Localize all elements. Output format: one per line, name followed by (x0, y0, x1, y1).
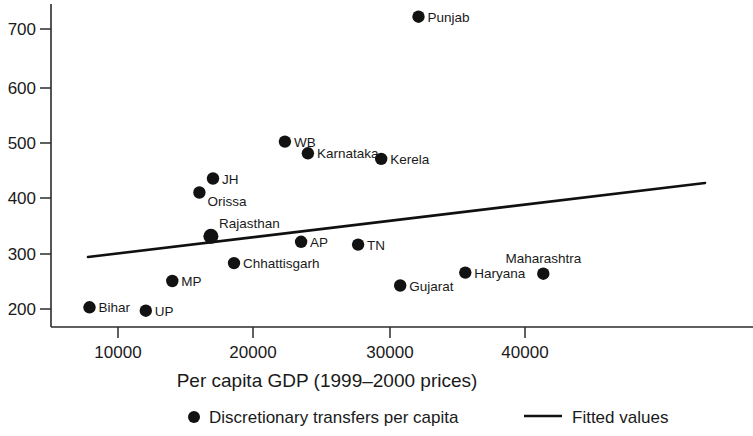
point-marker (537, 268, 549, 280)
y-tick-label-400: 400 (8, 189, 36, 208)
x-tick-label-10000: 10000 (94, 343, 141, 362)
point-label: Orissa (207, 194, 246, 209)
chart-canvas: 700 600 500 400 300 200 10000 20000 3000… (0, 0, 753, 436)
point-label: MP (181, 274, 201, 289)
point-label: Gujarat (409, 279, 454, 294)
data-point-chhattisgarh: Chhattisgarh (228, 256, 320, 271)
point-label: Karnataka (317, 146, 379, 161)
point-marker (302, 147, 314, 159)
y-tick-label-500: 500 (8, 134, 36, 153)
data-point-ap: AP (295, 235, 328, 250)
x-tick-label-30000: 30000 (366, 343, 413, 362)
scatter-chart-figure: 700 600 500 400 300 200 10000 20000 3000… (0, 0, 753, 436)
point-marker (83, 301, 95, 313)
point-label: Punjab (428, 10, 470, 25)
point-label: Haryana (474, 266, 526, 281)
y-tick-label-300: 300 (8, 245, 36, 264)
data-point-haryana: Haryana (459, 266, 526, 281)
point-marker (193, 186, 205, 198)
x-axis-ticks (118, 327, 525, 338)
point-label: AP (310, 235, 328, 250)
x-axis: 10000 20000 30000 40000 Per capita GDP (… (51, 327, 753, 391)
point-marker (203, 229, 218, 244)
point-marker (279, 135, 291, 147)
point-label: Maharashtra (505, 251, 581, 266)
data-point-gujarat: Gujarat (394, 279, 454, 294)
data-point-tn: TN (352, 238, 385, 253)
point-marker (228, 257, 240, 269)
point-marker (352, 238, 364, 250)
point-marker (295, 236, 307, 248)
point-marker (140, 305, 152, 317)
point-label: Bihar (99, 300, 131, 315)
scatter-points-layer: BiharUPMPOrissaJHRajasthanChhattisgarhWB… (83, 10, 581, 319)
x-tick-label-40000: 40000 (501, 343, 548, 362)
point-label: UP (155, 304, 174, 319)
y-axis-tick-labels: 700 600 500 400 300 200 (8, 20, 36, 319)
legend-label-fitted-values: Fitted values (572, 408, 668, 427)
point-marker (412, 11, 424, 23)
y-axis: 700 600 500 400 300 200 (8, 4, 51, 327)
y-tick-label-600: 600 (8, 79, 36, 98)
data-point-up: UP (140, 304, 174, 319)
point-label: WB (294, 135, 316, 150)
legend-dot-icon (188, 411, 200, 423)
point-label: Kerela (390, 152, 430, 167)
point-marker (166, 275, 178, 287)
x-axis-title: Per capita GDP (1999–2000 prices) (177, 370, 478, 391)
point-label: Rajasthan (219, 216, 280, 231)
chart-legend: Discretionary transfers per capita Fitte… (188, 408, 668, 427)
legend-label-discretionary-transfers: Discretionary transfers per capita (209, 408, 459, 427)
data-point-mp: MP (166, 274, 201, 289)
y-tick-label-200: 200 (8, 300, 36, 319)
point-label: JH (222, 172, 239, 187)
data-point-bihar: Bihar (83, 300, 130, 315)
point-label: TN (367, 238, 385, 253)
fitted-values-line (88, 183, 705, 257)
y-axis-ticks (40, 29, 51, 309)
y-tick-label-700: 700 (8, 20, 36, 39)
point-marker (459, 266, 471, 278)
data-point-jh: JH (207, 172, 239, 187)
point-label: Chhattisgarh (243, 256, 320, 271)
data-point-punjab: Punjab (412, 10, 469, 25)
point-marker (375, 153, 387, 165)
x-axis-tick-labels: 10000 20000 30000 40000 (94, 343, 548, 362)
data-point-wb: WB (279, 135, 316, 150)
data-point-orissa: Orissa (193, 186, 247, 208)
x-tick-label-20000: 20000 (229, 343, 276, 362)
point-marker (394, 279, 406, 291)
data-point-kerela: Kerela (375, 152, 430, 167)
point-marker (207, 172, 219, 184)
